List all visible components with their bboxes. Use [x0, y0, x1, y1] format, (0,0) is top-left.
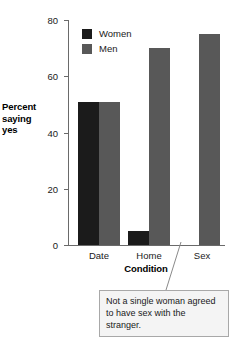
y-tick-label-1: 20	[47, 183, 58, 194]
legend-label-women: Women	[99, 28, 132, 39]
y-axis-title-line-2: saying	[2, 113, 54, 125]
bar-women-home	[128, 231, 149, 245]
bar-women-date	[78, 102, 99, 245]
x-category-label-sex: Sex	[194, 250, 210, 261]
legend-label-men: Men	[99, 43, 117, 54]
bar-men-date	[99, 102, 120, 245]
y-tick-3: 60	[64, 76, 68, 77]
x-axis-title: Condition	[68, 263, 224, 274]
x-category-label-home: Home	[136, 250, 161, 261]
chart-legend: Women Men	[82, 26, 132, 56]
legend-swatch-women-icon	[82, 29, 92, 39]
y-tick-0: 0	[64, 245, 68, 246]
callout-line-1: Not a single woman agreed	[106, 295, 222, 307]
y-axis-title-line-1: Percent	[2, 101, 54, 113]
bar-men-sex	[199, 34, 220, 245]
y-tick-label-4: 80	[47, 15, 58, 26]
y-tick-label-2: 40	[47, 127, 58, 138]
y-axis-line	[68, 20, 69, 246]
y-tick-label-3: 60	[47, 71, 58, 82]
y-tick-label-0: 0	[53, 240, 58, 251]
legend-swatch-men-icon	[82, 44, 92, 54]
y-axis-title: Percent saying yes	[2, 101, 54, 136]
y-tick-2: 40	[64, 133, 68, 134]
y-axis-title-line-3: yes	[2, 124, 54, 136]
x-category-label-date: Date	[89, 250, 109, 261]
callout-annotation: Not a single woman agreed to have sex wi…	[99, 290, 229, 337]
bar-men-home	[149, 48, 170, 245]
y-tick-1: 20	[64, 189, 68, 190]
legend-item-men: Men	[82, 41, 132, 56]
legend-item-women: Women	[82, 26, 132, 41]
y-tick-4: 80	[64, 20, 68, 21]
callout-line-2: to have sex with the stranger.	[106, 307, 222, 331]
x-axis-line	[68, 245, 225, 246]
